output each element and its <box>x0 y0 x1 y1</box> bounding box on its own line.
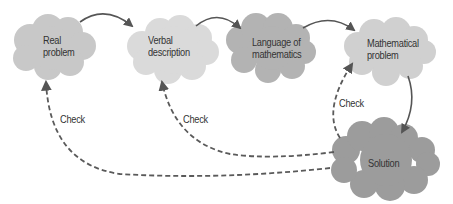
check-label-math: Check <box>339 97 364 109</box>
node-solution-label: Solution <box>368 157 399 169</box>
node-real-problem-label: Real problem <box>43 34 75 58</box>
arrow-real-to-verbal <box>80 14 132 26</box>
check-label-real: Check <box>60 113 85 125</box>
modelling-cycle-diagram <box>0 0 453 204</box>
node-language-of-mathematics-label: Language of mathematics <box>252 36 301 60</box>
node-mathematical-problem-label: Mathematical problem <box>367 37 419 61</box>
check-path-solution-to-real <box>46 82 330 176</box>
arrow-math-to-solution <box>402 76 412 132</box>
arrow-language-to-math <box>303 20 354 30</box>
node-verbal-description-label: Verbal description <box>148 34 190 58</box>
check-label-verbal: Check <box>183 113 208 125</box>
